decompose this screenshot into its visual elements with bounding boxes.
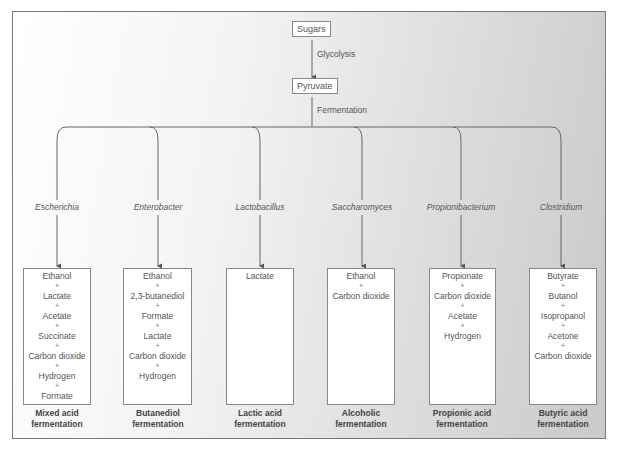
fermentation-type-butanediol: Butanediol fermentation bbox=[132, 408, 183, 430]
product: Succinate bbox=[24, 331, 90, 341]
product: Butanol bbox=[530, 291, 596, 301]
product: Hydrogen bbox=[124, 371, 191, 381]
fermentation-type-alcoholic: Alcoholic fermentation bbox=[335, 408, 386, 430]
type-line1: Mixed acid bbox=[31, 408, 82, 419]
products-box-alcoholic: Ethanol + Carbon dioxide bbox=[327, 268, 395, 405]
plus-sign: + bbox=[530, 321, 596, 331]
fermentation-type-propionic-acid: Propionic acid fermentation bbox=[433, 408, 492, 430]
plus-sign: + bbox=[24, 321, 90, 331]
type-line2: fermentation bbox=[335, 419, 386, 430]
product: Lactate bbox=[124, 331, 191, 341]
product: Hydrogen bbox=[24, 371, 90, 381]
product: Carbon dioxide bbox=[430, 291, 495, 301]
organism-enterobacter: Enterobacter bbox=[134, 202, 183, 212]
plus-sign: + bbox=[24, 281, 90, 291]
product: Carbon dioxide bbox=[328, 291, 394, 301]
product: Lactate bbox=[24, 291, 90, 301]
product: Lactate bbox=[227, 271, 293, 281]
organism-propionibacterium: Propionibacterium bbox=[427, 202, 496, 212]
plus-sign: + bbox=[124, 341, 191, 351]
connector-lines bbox=[0, 0, 618, 453]
product: Acetate bbox=[24, 311, 90, 321]
type-line2: fermentation bbox=[132, 419, 183, 430]
plus-sign: + bbox=[124, 361, 191, 371]
type-line1: Butanediol bbox=[132, 408, 183, 419]
plus-sign: + bbox=[430, 301, 495, 311]
plus-sign: + bbox=[530, 281, 596, 291]
product: Ethanol bbox=[124, 271, 191, 281]
product: Acetone bbox=[530, 331, 596, 341]
type-line1: Lactic acid bbox=[234, 408, 285, 419]
plus-sign: + bbox=[328, 281, 394, 291]
product: Isopropanol bbox=[530, 311, 596, 321]
product: Ethanol bbox=[328, 271, 394, 281]
products-box-mixed-acid: Ethanol + Lactate + Acetate + Succinate … bbox=[23, 268, 91, 405]
plus-sign: + bbox=[430, 281, 495, 291]
type-line2: fermentation bbox=[31, 419, 82, 430]
plus-sign: + bbox=[430, 321, 495, 331]
sugars-node: Sugars bbox=[292, 21, 331, 37]
product: Butyrate bbox=[530, 271, 596, 281]
plus-sign: + bbox=[24, 381, 90, 391]
organism-saccharomyces: Saccharomyces bbox=[332, 202, 392, 212]
fermentation-label: Fermentation bbox=[317, 105, 367, 115]
product: Hydrogen bbox=[430, 331, 495, 341]
plus-sign: + bbox=[24, 341, 90, 351]
type-line1: Alcoholic bbox=[335, 408, 386, 419]
product: Acetate bbox=[430, 311, 495, 321]
products-box-propionic-acid: Propionate + Carbon dioxide + Acetate + … bbox=[429, 268, 496, 405]
product: Propionate bbox=[430, 271, 495, 281]
type-line2: fermentation bbox=[234, 419, 285, 430]
products-box-butyric-acid: Butyrate + Butanol + Isopropanol + Aceto… bbox=[529, 268, 597, 405]
plus-sign: + bbox=[24, 361, 90, 371]
products-box-lactic-acid: Lactate bbox=[226, 268, 294, 405]
plus-sign: + bbox=[124, 281, 191, 291]
organism-clostridium: Clostridium bbox=[540, 202, 583, 212]
product: Formate bbox=[124, 311, 191, 321]
product: Carbon dioxide bbox=[530, 351, 596, 361]
type-line2: fermentation bbox=[433, 419, 492, 430]
product: Carbon dioxide bbox=[24, 351, 90, 361]
type-line1: Butyric acid bbox=[537, 408, 588, 419]
product: 2,3-butanediol bbox=[124, 291, 191, 301]
plus-sign: + bbox=[530, 301, 596, 311]
product: Carbon dioxide bbox=[124, 351, 191, 361]
organism-escherichia: Escherichia bbox=[35, 202, 79, 212]
pyruvate-node: Pyruvate bbox=[292, 78, 338, 94]
type-line1: Propionic acid bbox=[433, 408, 492, 419]
fermentation-type-mixed-acid: Mixed acid fermentation bbox=[31, 408, 82, 430]
organism-lactobacillus: Lactobacillus bbox=[235, 202, 284, 212]
plus-sign: + bbox=[124, 321, 191, 331]
glycolysis-label: Glycolysis bbox=[317, 49, 355, 59]
plus-sign: + bbox=[124, 301, 191, 311]
fermentation-type-butyric-acid: Butyric acid fermentation bbox=[537, 408, 588, 430]
plus-sign: + bbox=[24, 301, 90, 311]
product: Formate bbox=[24, 391, 90, 401]
product: Ethanol bbox=[24, 271, 90, 281]
plus-sign: + bbox=[530, 341, 596, 351]
type-line2: fermentation bbox=[537, 419, 588, 430]
fermentation-type-lactic-acid: Lactic acid fermentation bbox=[234, 408, 285, 430]
products-box-butanediol: Ethanol + 2,3-butanediol + Formate + Lac… bbox=[123, 268, 192, 405]
